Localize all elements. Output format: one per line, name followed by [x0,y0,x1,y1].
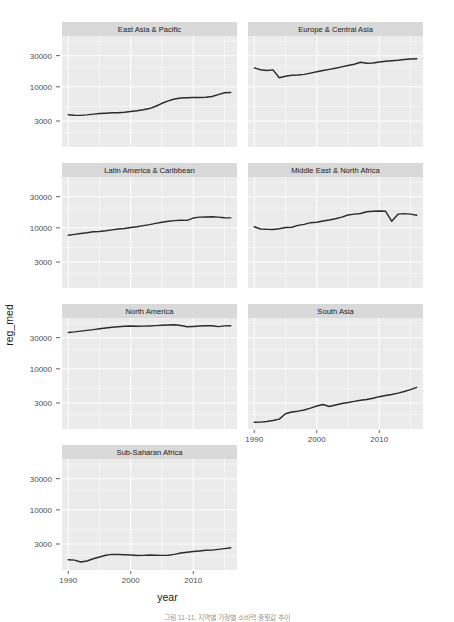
y-axis-tick-label: 10000 [30,365,53,374]
y-axis-tick-label: 10000 [30,224,53,233]
y-axis-title: reg_med [3,304,15,346]
panel-background [248,36,423,147]
panel-background [62,318,237,429]
x-axis-tick-label: 1990 [245,435,263,444]
facet-panel: South Asia [248,304,423,429]
facet-panel: Sub-Saharan Africa [62,445,237,570]
facet-strip-label: Middle East & North Africa [291,166,380,175]
facet-strip-label: Sub-Saharan Africa [117,448,184,457]
y-axis-tick-label: 3000 [34,399,52,408]
panel-background [62,459,237,570]
y-axis-tick-label: 3000 [34,117,52,126]
facet-strip-label: Latin America & Caribbean [104,166,194,175]
x-axis-tick-label: 2000 [308,435,326,444]
figure-caption: 그림 11-11. 지역별 가정별 소비력 중윗값 추이 [0,612,454,622]
facet-strip-label: North America [125,307,174,316]
y-axis-tick-label: 3000 [34,258,52,267]
y-axis-tick-label: 30000 [30,193,53,202]
panel-background [62,36,237,147]
facet-panel: North America [62,304,237,429]
panel-background [248,318,423,429]
y-axis-tick-label: 10000 [30,83,53,92]
facet-panel: Latin America & Caribbean [62,163,237,288]
facet-strip-label: South Asia [317,307,354,316]
x-axis-title: year [157,591,178,603]
y-axis-tick-label: 30000 [30,334,53,343]
y-axis-tick-label: 30000 [30,475,53,484]
y-axis-tick-label: 30000 [30,52,53,61]
x-axis-tick-label: 1990 [59,576,77,585]
facet-strip-label: East Asia & Pacific [118,25,182,34]
x-axis-tick-label: 2000 [122,576,140,585]
x-axis-tick-label: 2010 [184,576,202,585]
facet-panel: East Asia & Pacific [62,22,237,147]
facet-strip-label: Europe & Central Asia [298,25,373,34]
x-axis-tick-label: 2010 [370,435,388,444]
panel-background [248,177,423,288]
y-axis-tick-label: 3000 [34,540,52,549]
facet-panel: Middle East & North Africa [248,163,423,288]
facet-panel: Europe & Central Asia [248,22,423,147]
y-axis-tick-label: 10000 [30,506,53,515]
